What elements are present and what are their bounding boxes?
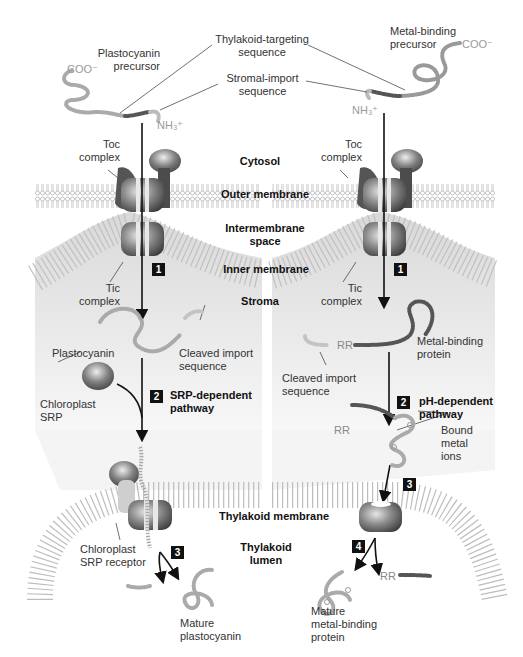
label-srp-dependent-pathway: SRP-dependent pathway: [170, 389, 252, 415]
metal-binding-precursor-chain: [367, 43, 460, 98]
label-cytosol: Cytosol: [230, 155, 290, 168]
label-chloroplast-srp: Chloroplast SRP: [40, 398, 96, 424]
tat-translocon: [359, 501, 402, 532]
step-badge-1-left: 1: [152, 263, 165, 276]
label-coo-left: COO⁻: [67, 63, 98, 76]
label-thylakoid-targeting: Thylakoid-targeting sequence: [212, 33, 312, 59]
label-intermembrane-space: Intermembrane space: [220, 222, 310, 248]
label-thylakoid-membrane: Thylakoid membrane: [214, 510, 334, 523]
label-ph-dependent-pathway: pH-dependent pathway: [419, 395, 493, 421]
label-cleaved-import-left: Cleaved import sequence: [179, 347, 253, 373]
label-stromal-import: Stromal-import sequence: [215, 72, 310, 98]
label-nh3-right: NH₃⁺: [352, 104, 378, 117]
chloroplast-srp: [82, 362, 114, 390]
label-outer-membrane: Outer membrane: [220, 188, 310, 201]
label-metal-binding-precursor: Metal-binding precursor: [390, 25, 456, 51]
label-coo-right: COO⁻: [462, 38, 493, 51]
step-badge-1-right: 1: [394, 263, 407, 276]
label-srp-receptor: Chloroplast SRP receptor: [80, 543, 146, 569]
step-badge-2-left: 2: [150, 390, 163, 403]
label-mature-metal-binding: Mature metal-binding protein: [311, 605, 377, 644]
label-cleaved-import-right: Cleaved import sequence: [282, 372, 356, 398]
label-plastocyanin-precursor: Plastocyanin precursor: [90, 47, 160, 73]
label-inner-membrane: Inner membrane: [220, 263, 312, 276]
label-toc-right: Toc complex: [312, 138, 362, 164]
step-badge-4-right: 4: [352, 540, 365, 553]
step-badge-2-right: 2: [397, 396, 410, 409]
label-plastocyanin: Plastocyanin: [52, 347, 114, 360]
plastocyanin-precursor-chain: [64, 70, 159, 121]
label-metal-binding-protein: Metal-binding protein: [417, 335, 483, 361]
label-rr-3: RR: [380, 570, 396, 583]
step-badge-3-left: 3: [171, 546, 184, 559]
step-badge-3-right: 3: [403, 478, 416, 491]
label-rr-2: RR: [334, 424, 350, 437]
label-bound-metal-ions: Bound metal ions: [441, 424, 473, 463]
label-stroma: Stroma: [230, 295, 290, 308]
label-nh3-left: NH₃⁺: [157, 119, 183, 132]
label-mature-plastocyanin: Mature plastocyanin: [180, 617, 241, 643]
label-thylakoid-lumen: Thylakoid lumen: [236, 541, 296, 567]
label-rr-1: RR: [337, 339, 353, 352]
label-toc-left: Toc complex: [70, 138, 120, 164]
label-tic-right: Tic complex: [312, 282, 362, 308]
label-tic-left: Tic complex: [70, 282, 120, 308]
